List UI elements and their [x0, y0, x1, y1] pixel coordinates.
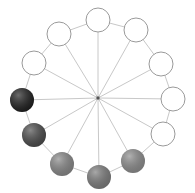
spinner-dot: [151, 122, 175, 146]
spinner-dot: [47, 22, 71, 46]
dot-shine: [10, 88, 34, 112]
dot-shine: [22, 123, 46, 147]
dot-shine: [121, 149, 145, 173]
dot-shine: [50, 152, 74, 176]
spinner-dot: [161, 87, 185, 111]
spinner-hub: [97, 97, 100, 100]
spinner-dot: [22, 51, 46, 75]
dot-shine: [87, 165, 111, 189]
spinner-dot: [124, 18, 148, 42]
loading-spinner: [0, 0, 195, 193]
spinner-dot: [86, 8, 110, 32]
spinner-dot: [149, 52, 173, 76]
